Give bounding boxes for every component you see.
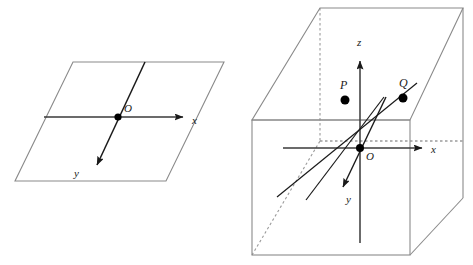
point-Q-label: Q bbox=[399, 76, 408, 90]
point-P-label: P bbox=[339, 78, 348, 92]
figure-container: O x y bbox=[0, 0, 473, 265]
left-diagram-group: O x y bbox=[15, 62, 224, 181]
box-top-face bbox=[252, 8, 463, 120]
left-y-axis-label: y bbox=[73, 167, 79, 179]
right-y-axis-label: y bbox=[345, 193, 351, 205]
right-diagram-group: z x y O P Q bbox=[252, 8, 463, 255]
right-x-axis-label: x bbox=[430, 143, 436, 155]
left-x-axis-label: x bbox=[191, 114, 197, 126]
box-right-bottom-diagonal-edge bbox=[410, 198, 463, 255]
geometry-figure: O x y bbox=[0, 0, 473, 265]
box-hidden-bottom-diagonal bbox=[252, 141, 320, 255]
right-z-axis-label: z bbox=[356, 36, 362, 48]
point-Q-dot bbox=[399, 94, 408, 103]
point-P-dot bbox=[341, 96, 350, 105]
box-front-face bbox=[252, 120, 410, 255]
left-origin-label: O bbox=[124, 102, 132, 114]
right-origin-dot bbox=[356, 144, 364, 152]
left-origin-dot bbox=[114, 113, 121, 120]
left-y-axis-line bbox=[97, 62, 145, 165]
right-origin-label: O bbox=[366, 150, 374, 162]
